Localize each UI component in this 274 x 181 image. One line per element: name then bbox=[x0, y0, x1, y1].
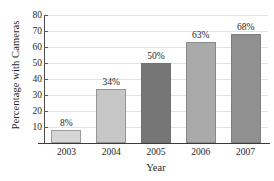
bar-group: 68% bbox=[231, 15, 261, 143]
bar bbox=[141, 63, 171, 143]
y-tick-mark bbox=[44, 111, 48, 112]
bar-group: 34% bbox=[96, 15, 126, 143]
y-tick-mark bbox=[44, 15, 48, 16]
bar-group: 63% bbox=[186, 15, 216, 143]
bar-value-label: 34% bbox=[86, 77, 136, 87]
y-tick-label: 20 bbox=[22, 105, 42, 117]
x-axis-title: Year bbox=[44, 161, 268, 175]
y-tick-mark bbox=[44, 63, 48, 64]
y-tick-label: 40 bbox=[22, 73, 42, 85]
bar-chart-figure: Percentage with Cameras 1020304050607080… bbox=[0, 0, 274, 181]
x-tick-label: 2004 bbox=[89, 146, 134, 159]
bar-value-label: 8% bbox=[41, 118, 91, 128]
x-axis-tick-labels: 20032004200520062007 bbox=[44, 146, 268, 160]
x-axis-line bbox=[38, 143, 270, 144]
x-tick-label: 2005 bbox=[134, 146, 179, 159]
y-tick-label: 70 bbox=[22, 25, 42, 37]
y-tick-mark bbox=[44, 47, 48, 48]
bar-value-label: 50% bbox=[131, 51, 181, 61]
bar-series: 8%34%50%63%68% bbox=[44, 15, 268, 143]
y-tick-mark bbox=[44, 95, 48, 96]
y-axis-tick-labels: 1020304050607080 bbox=[22, 0, 42, 181]
bar bbox=[231, 34, 261, 143]
y-tick-label: 80 bbox=[22, 9, 42, 21]
bar-value-label: 68% bbox=[221, 22, 271, 32]
y-tick-mark bbox=[44, 127, 48, 128]
bar-group: 8% bbox=[51, 15, 81, 143]
x-tick-label: 2003 bbox=[44, 146, 89, 159]
x-tick-label: 2007 bbox=[223, 146, 268, 159]
y-tick-mark bbox=[44, 31, 48, 32]
bar bbox=[96, 89, 126, 143]
y-tick-label: 10 bbox=[22, 121, 42, 133]
y-tick-label: 30 bbox=[22, 89, 42, 101]
bar bbox=[51, 130, 81, 143]
y-tick-mark bbox=[44, 79, 48, 80]
bar-value-label: 63% bbox=[176, 30, 226, 40]
bar bbox=[186, 42, 216, 143]
bar-group: 50% bbox=[141, 15, 171, 143]
y-tick-label: 50 bbox=[22, 57, 42, 69]
y-axis-title: Percentage with Cameras bbox=[9, 10, 23, 140]
y-tick-label: 60 bbox=[22, 41, 42, 53]
x-tick-label: 2006 bbox=[178, 146, 223, 159]
